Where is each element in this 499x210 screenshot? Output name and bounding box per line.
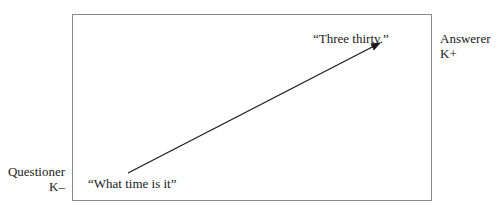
answerer-role: Answerer	[440, 31, 491, 46]
answer-utterance: “Three thirty.”	[313, 31, 389, 46]
arrow-icon	[128, 43, 380, 173]
question-utterance: “What time is it”	[88, 176, 176, 191]
arrow-diagram	[0, 0, 499, 210]
questioner-label: Questioner K–	[8, 164, 65, 194]
answerer-knowledge: K+	[440, 46, 491, 61]
questioner-role: Questioner	[8, 164, 65, 179]
answerer-label: Answerer K+	[440, 31, 491, 61]
questioner-knowledge: K–	[8, 179, 65, 194]
